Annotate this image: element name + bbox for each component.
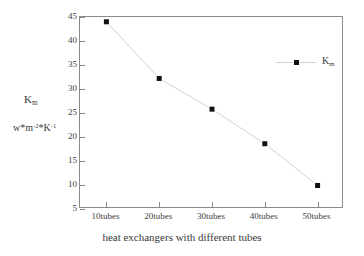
legend-marker-square-icon [293,59,300,66]
y-axis-tick-label: 25 [55,108,77,117]
legend-label-subscript: m [329,60,334,67]
plot-area [80,17,342,207]
data-series-km [80,17,344,209]
x-axis-tick-labels: 10tubes20tubes30tubes40tubes50tubes [79,211,343,225]
x-axis-tick [265,202,266,207]
y-axis-tick [80,137,85,138]
x-axis-tick-label: 20tubes [144,211,172,222]
legend: Km [276,55,334,69]
x-axis-tick [106,202,107,207]
y-axis-tick [80,185,85,186]
y-axis-tick [80,89,85,90]
x-axis-tick-label: 10tubes [91,211,119,222]
data-point-marker [262,141,267,146]
chart-figure: 45403530252015105 Km w*m-2*K-1 Km 10tube… [0,0,364,256]
series-line [106,22,317,186]
y-axis-tick-label: 30 [55,84,77,93]
y-axis-label-symbol: Km [24,93,38,109]
y-axis-units-exponent-2: -1 [51,122,57,129]
y-axis-tick-label: 20 [55,132,77,141]
y-axis-tick [80,113,85,114]
y-axis-tick-label: 10 [55,180,77,189]
x-axis-tick [318,202,319,207]
y-axis-label-symbol-base: K [24,93,32,105]
y-axis-tick [80,209,85,210]
data-point-marker [157,76,162,81]
legend-line-sample [276,62,316,63]
data-point-marker [104,19,109,24]
x-axis-tick [159,202,160,207]
y-axis-tick [80,65,85,66]
y-axis-tick [80,161,85,162]
y-axis-tick [80,41,85,42]
plot-frame: Km [79,16,343,208]
y-axis-units-prefix: w*m [13,122,33,133]
y-axis-tick-label: 40 [55,36,77,45]
x-axis-tick-label: 40tubes [250,211,278,222]
y-axis-label-symbol-subscript: m [32,99,38,107]
legend-entry-label: Km [322,55,334,69]
x-axis-tick [212,202,213,207]
data-point-marker [210,107,215,112]
x-axis-tick-label: 50tubes [303,211,331,222]
y-axis-tick-label: 5 [55,204,77,213]
data-point-marker [315,183,320,188]
y-axis-tick-label: 45 [55,12,77,21]
y-axis-units-mid: *K [39,122,51,133]
y-axis-label-units: w*m-2*K-1 [13,120,56,134]
x-axis-title: heat exchangers with different tubes [0,231,364,244]
x-axis-tick-label: 30tubes [197,211,225,222]
y-axis-tick [80,17,85,18]
y-axis-tick-label: 15 [55,156,77,165]
y-axis-tick-label: 35 [55,60,77,69]
